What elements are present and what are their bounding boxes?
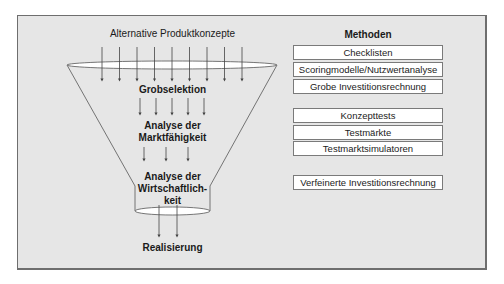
method-box: Scoringmodelle/Nutzwertanalyse — [293, 62, 443, 77]
method-box: Verfeinerte Investitionsrechnung — [293, 175, 443, 190]
stage-marktfaehigkeit-line-1: Analyse der — [110, 120, 235, 132]
method-box: Grobe Investitionsrechnung — [293, 79, 443, 94]
stage-wirtschaftlichkeit: Analyse der Wirtschaftlich- keit — [110, 171, 235, 207]
stage-marktfaehigkeit: Analyse der Marktfähigkeit — [110, 120, 235, 144]
stage-wirtschaftlichkeit-line-2: Wirtschaftlich- — [110, 183, 235, 195]
stage-grobselektion: Grobselektion — [110, 84, 235, 96]
method-box: Testmarktsimulatoren — [293, 141, 443, 156]
stage-marktfaehigkeit-line-2: Marktfähigkeit — [110, 132, 235, 144]
method-box: Testmärkte — [293, 125, 443, 140]
methods-title: Methoden — [293, 29, 443, 40]
stage-wirtschaftlichkeit-line-3: keit — [110, 195, 235, 207]
funnel-bottom-opening — [135, 207, 210, 215]
funnel-input-label: Alternative Produktkonzepte — [90, 28, 255, 40]
stage-wirtschaftlichkeit-line-1: Analyse der — [110, 171, 235, 183]
method-box: Konzepttests — [293, 108, 443, 123]
funnel-output-label: Realisierung — [110, 242, 235, 254]
method-box: Checklisten — [293, 45, 443, 60]
